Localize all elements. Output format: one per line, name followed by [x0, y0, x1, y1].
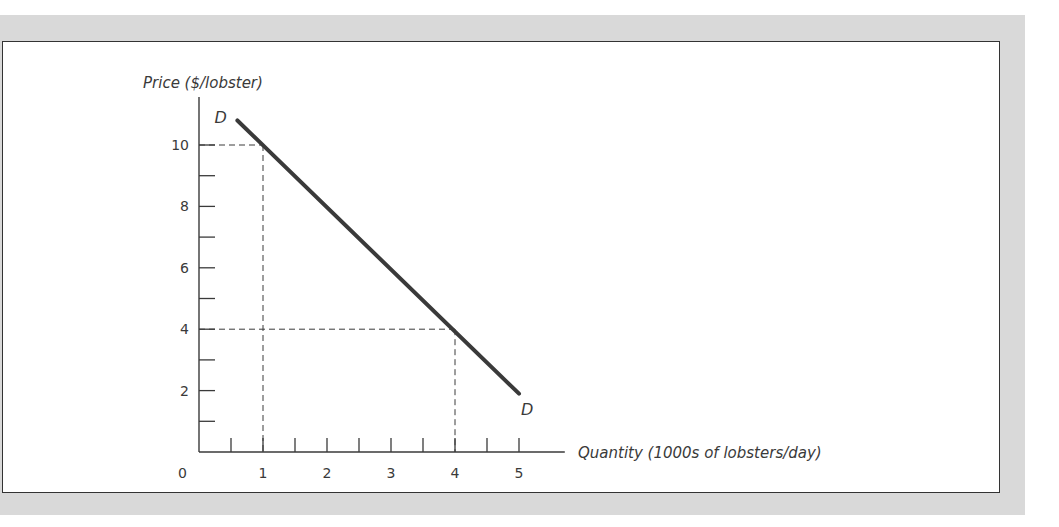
x-axis-title: Quantity (1000s of lobsters/day) [578, 444, 822, 462]
y-tick-label: 10 [171, 137, 189, 153]
ticks: 24681012345 [171, 137, 523, 481]
axes [199, 97, 565, 452]
y-tick-label: 6 [180, 260, 189, 276]
demand-chart: 24681012345 DD Price ($/lobster) Quantit… [0, 0, 1059, 527]
x-tick-label: 2 [323, 465, 332, 481]
y-tick-label: 4 [180, 321, 189, 337]
demand-line [237, 120, 519, 393]
y-axis-title: Price ($/lobster) [143, 74, 263, 92]
x-tick-label: 3 [387, 465, 396, 481]
y-tick-label: 2 [180, 383, 189, 399]
demand-label-end: D [521, 400, 533, 419]
axis-labels: Price ($/lobster) Quantity (1000s of lob… [143, 74, 822, 481]
x-tick-label: 5 [515, 465, 524, 481]
x-tick-label: 1 [259, 465, 268, 481]
y-tick-label: 8 [180, 198, 189, 214]
origin-label: 0 [178, 465, 187, 481]
x-tick-label: 4 [451, 465, 460, 481]
reference-dashed-lines [199, 145, 455, 452]
demand-curve: DD [214, 108, 533, 418]
demand-label-start: D [214, 108, 226, 127]
